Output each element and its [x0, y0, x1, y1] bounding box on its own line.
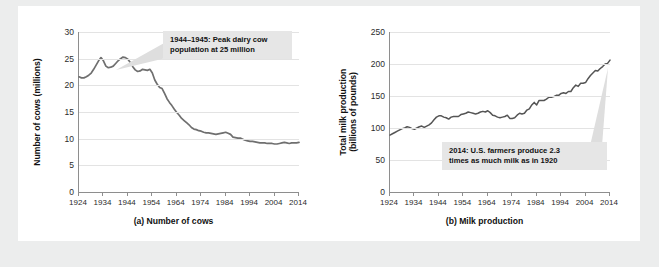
x-tick-label: 1924	[69, 198, 87, 207]
x-tick	[151, 192, 152, 196]
annotation-peak-dairy-cow: 1944–1945: Peak dairy cow population at …	[163, 31, 292, 59]
gridline	[79, 85, 299, 86]
y-tick-label: 25	[65, 54, 74, 64]
gridline	[79, 112, 299, 113]
gridline	[390, 96, 610, 97]
x-tick	[274, 192, 275, 196]
gridline	[390, 128, 610, 129]
x-tick	[249, 192, 250, 196]
y-tick-label: 200	[371, 59, 385, 69]
x-tick-label: 1934	[94, 198, 112, 207]
figure-root: Number of cows (millions) 051015202530 1…	[0, 0, 659, 267]
y-tick-label: 5	[69, 160, 74, 170]
x-tick	[462, 192, 463, 196]
y-tick-label: 15	[65, 107, 74, 117]
annotation-leader-a	[116, 42, 166, 70]
x-axis-b: 1924193419441954196419741984199420042014	[389, 192, 609, 193]
x-tick-label: 1964	[478, 198, 496, 207]
x-tick-label: 2004	[576, 198, 594, 207]
y-tick-label: 150	[371, 91, 385, 101]
x-tick	[511, 192, 512, 196]
gridline	[390, 32, 610, 33]
x-tick	[78, 192, 79, 196]
x-tick-label: 1974	[191, 198, 209, 207]
x-tick	[127, 192, 128, 196]
x-tick	[102, 192, 103, 196]
annotation-milk-2014: 2014: U.S. farmers produce 2.3 times as …	[442, 142, 607, 170]
x-tick	[200, 192, 201, 196]
gridline	[79, 139, 299, 140]
x-tick-label: 2004	[265, 198, 283, 207]
x-tick-label: 1964	[167, 198, 185, 207]
x-tick-label: 1994	[551, 198, 569, 207]
y-tick-label: 50	[376, 155, 385, 165]
x-tick-label: 2014	[600, 198, 618, 207]
x-tick-label: 1984	[527, 198, 545, 207]
x-tick	[560, 192, 561, 196]
x-tick-label: 1944	[118, 198, 136, 207]
x-tick	[585, 192, 586, 196]
cow-population-line	[79, 57, 299, 144]
y-tick-label: 30	[65, 27, 74, 37]
x-tick-label: 1974	[502, 198, 520, 207]
x-tick	[298, 192, 299, 196]
x-tick-label: 1994	[240, 198, 258, 207]
x-tick-label: 2014	[289, 198, 307, 207]
x-tick	[413, 192, 414, 196]
y-tick-label: 0	[69, 187, 74, 197]
x-tick	[536, 192, 537, 196]
caption-b: (b) Milk production	[329, 216, 640, 226]
annotation-leader-b	[582, 68, 608, 146]
x-tick-label: 1984	[216, 198, 234, 207]
chart-panel-milk-production: Total milk production(billions of pounds…	[329, 6, 640, 241]
x-tick-label: 1944	[429, 198, 447, 207]
y-tick-label: 250	[371, 27, 385, 37]
x-axis-a: 1924193419441954196419741984199420042014	[78, 192, 298, 193]
y-tick-label: 20	[65, 80, 74, 90]
chart-panel-number-of-cows: Number of cows (millions) 051015202530 1…	[18, 6, 329, 241]
y-axis-title-b-line1: Total milk production	[338, 69, 348, 156]
y-axis-title-b: Total milk production(billions of pounds…	[339, 32, 358, 192]
gridline	[79, 165, 299, 166]
gridline	[390, 64, 610, 65]
y-tick-label: 100	[371, 123, 385, 133]
x-tick-label: 1954	[142, 198, 160, 207]
x-tick	[438, 192, 439, 196]
y-tick-label: 10	[65, 134, 74, 144]
x-tick-label: 1924	[380, 198, 398, 207]
y-tick-label: 0	[380, 187, 385, 197]
x-tick	[487, 192, 488, 196]
x-tick	[389, 192, 390, 196]
figure-card: Number of cows (millions) 051015202530 1…	[18, 6, 640, 241]
x-tick	[225, 192, 226, 196]
y-axis-title-a: Number of cows (millions)	[32, 32, 42, 192]
x-tick	[176, 192, 177, 196]
x-tick	[609, 192, 610, 196]
x-tick-label: 1934	[405, 198, 423, 207]
caption-a: (a) Number of cows	[18, 216, 329, 226]
milk-production-line	[390, 60, 610, 135]
x-tick-label: 1954	[453, 198, 471, 207]
y-axis-title-b-line2: (billions of pounds)	[348, 72, 358, 152]
